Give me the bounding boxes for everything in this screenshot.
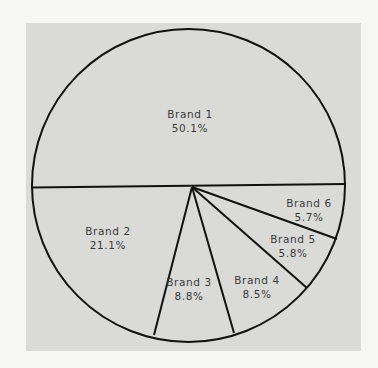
slice-value: 8.8% [166, 289, 212, 303]
slice-name: Brand 1 [167, 107, 213, 121]
slice-label-brand-4: Brand 4 8.5% [234, 273, 280, 301]
slice-divider-brand2-brand3 [154, 187, 192, 335]
slice-value: 5.7% [286, 210, 332, 224]
slice-label-brand-3: Brand 3 8.8% [166, 275, 212, 303]
slice-value: 8.5% [234, 287, 280, 301]
slice-name: Brand 5 [270, 232, 316, 246]
slice-label-brand-5: Brand 5 5.8% [270, 232, 316, 260]
slice-name: Brand 6 [286, 196, 332, 210]
pie-chart [0, 0, 378, 368]
slice-name: Brand 2 [85, 224, 131, 238]
slice-name: Brand 4 [234, 273, 280, 287]
slice-label-brand-6: Brand 6 5.7% [286, 196, 332, 224]
slice-value: 50.1% [167, 121, 213, 135]
slice-divider-brand3-brand4 [192, 187, 234, 333]
slice-label-brand-2: Brand 2 21.1% [85, 224, 131, 252]
slice-value: 5.8% [270, 246, 316, 260]
slice-label-brand-1: Brand 1 50.1% [167, 107, 213, 135]
slice-divider-brand1 [31, 184, 346, 188]
slice-value: 21.1% [85, 238, 131, 252]
slice-name: Brand 3 [166, 275, 212, 289]
